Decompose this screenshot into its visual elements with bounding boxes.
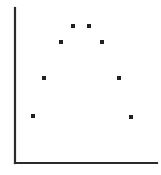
data-point-marker	[42, 76, 46, 80]
data-point-marker	[129, 115, 133, 119]
axes-group	[15, 8, 157, 163]
data-point-marker	[59, 40, 63, 44]
data-point-marker	[100, 40, 104, 44]
scatter-plot-figure	[0, 0, 161, 175]
data-point-marker	[117, 76, 121, 80]
data-points-group	[31, 24, 133, 119]
data-point-marker	[31, 114, 35, 118]
data-point-marker	[87, 24, 91, 28]
data-point-marker	[71, 24, 75, 28]
plot-canvas	[0, 0, 161, 175]
